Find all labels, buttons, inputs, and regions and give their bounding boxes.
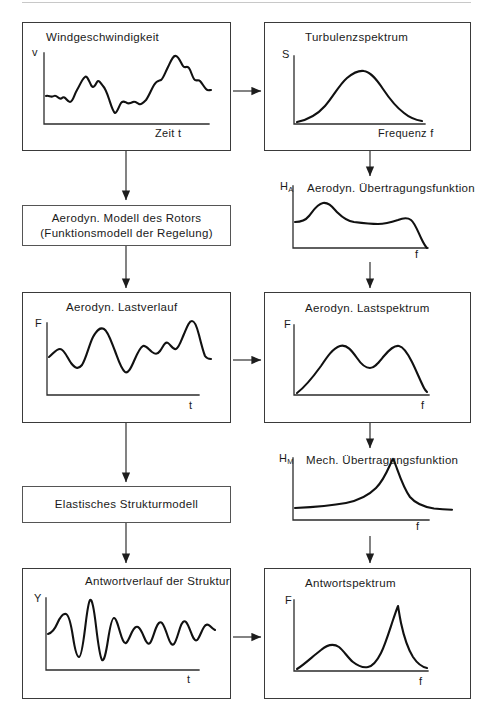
plot-windgeschwindigkeit (23, 23, 232, 152)
flow-diagram: Windgeschwindigkeit v Zeit t Turbulenzsp… (0, 0, 497, 719)
plot-mech-uebertragungsfunktion (264, 452, 471, 537)
process-box-line-1: Aerodyn. Modell des Rotors (52, 211, 202, 226)
panel-turbulenzspektrum: Turbulenzspektrum S Frequenz f (264, 22, 471, 151)
process-box-elastisches-strukturmodell[interactable]: Elastisches Strukturmodell (22, 486, 231, 523)
plot-aerodyn-uebertragungsfunktion (264, 180, 471, 266)
panel-antwortverlauf-der-struktur: Antwortverlauf der Struktur Y t (22, 568, 231, 699)
panel-aerodyn-lastspektrum: Aerodyn. Lastspektrum F f (264, 292, 471, 423)
panel-mech-uebertragungsfunktion: Mech. Übertragungsfunktion HM f (264, 452, 471, 537)
panel-antwortspektrum: Antwortspektrum F f (264, 568, 471, 699)
process-box-aerodyn-modell-des-rotors[interactable]: Aerodyn. Modell des Rotors (Funktionsmod… (22, 205, 231, 246)
top-divider-rule (22, 2, 471, 3)
plot-turbulenzspektrum (265, 23, 472, 152)
process-box-line-1: Elastisches Strukturmodell (55, 497, 198, 512)
plot-aerodyn-lastverlauf (23, 293, 232, 424)
panel-aerodyn-lastverlauf: Aerodyn. Lastverlauf F t (22, 292, 231, 423)
plot-aerodyn-lastspektrum (265, 293, 472, 424)
process-box-line-2: (Funktionsmodell der Regelung) (40, 226, 213, 241)
plot-antwortspektrum (265, 569, 472, 700)
panel-aerodyn-uebertragungsfunktion: Aerodyn. Übertragungsfunktion HA f (264, 180, 471, 266)
plot-antwortverlauf-der-struktur (23, 569, 232, 700)
panel-windgeschwindigkeit: Windgeschwindigkeit v Zeit t (22, 22, 231, 151)
